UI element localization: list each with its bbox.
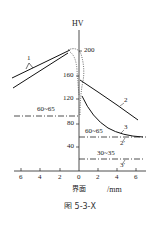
x-tick-right-4: 4 bbox=[115, 174, 119, 181]
x-tick-right-6: 6 bbox=[134, 174, 138, 181]
interface-dotted-curve bbox=[68, 49, 84, 115]
figure-caption: 图 5-3-X bbox=[45, 200, 115, 209]
x-tick-right-2: 2 bbox=[96, 174, 100, 181]
y-tick-40: 40 bbox=[67, 143, 74, 150]
curve-1-lower bbox=[13, 53, 68, 88]
y-tick-200: 200 bbox=[84, 47, 95, 54]
y-tick-160: 160 bbox=[63, 72, 74, 79]
x-tick-0: 0 bbox=[77, 174, 81, 181]
y-axis-label: HV bbox=[72, 20, 84, 28]
curve-2p-label: 2′ bbox=[120, 140, 125, 147]
x-tick-left-4: 4 bbox=[38, 174, 42, 181]
range-right-label: 60~65 bbox=[85, 128, 103, 135]
x-ticks bbox=[21, 168, 136, 171]
range-low-label: 30~35 bbox=[97, 150, 115, 157]
range-left-label: 60~65 bbox=[37, 106, 55, 113]
x-axis-label-unit: /mm bbox=[107, 186, 122, 194]
x-tick-left-6: 6 bbox=[19, 174, 23, 181]
curve-3p-label: 3′ bbox=[120, 162, 125, 169]
x-axis-label-interface: 界面 bbox=[72, 186, 86, 193]
y-tick-80: 80 bbox=[67, 120, 74, 127]
y-tick-120: 120 bbox=[63, 95, 74, 102]
curve-2-label: 2 bbox=[124, 97, 128, 104]
x-tick-left-2: 2 bbox=[58, 174, 62, 181]
curve-2 bbox=[80, 80, 138, 120]
curve-1-upper bbox=[12, 50, 70, 78]
curve-3-label: 3 bbox=[124, 124, 128, 131]
curve-1-label: 1 bbox=[27, 55, 31, 62]
